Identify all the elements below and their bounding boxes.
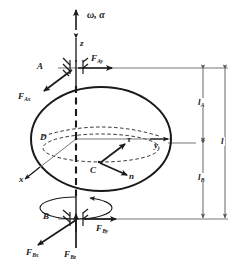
upper-dashed-arc (43, 127, 159, 136)
force-fbz-label: FBz (64, 250, 76, 259)
equator-ellipse (43, 134, 159, 162)
force-fbx-label: FBx (26, 248, 39, 257)
dimension-extension-lines (58, 68, 228, 219)
force-fax-arrow (44, 70, 72, 91)
dimension-l-label: l (220, 137, 225, 146)
vector-tau-arrow (100, 144, 125, 163)
omega-alpha-label: ω, α (87, 10, 105, 20)
diagram-svg (0, 0, 238, 271)
vector-tau-label: τ (127, 135, 131, 144)
force-fay-label: FAy (91, 54, 103, 63)
point-d-dot (75, 138, 78, 141)
dimension-lb-label: lB (197, 173, 205, 182)
dimension-la-label: lA (197, 98, 205, 107)
force-fby-label: FBy (96, 224, 108, 233)
force-fbx-sub: Bx (32, 252, 39, 258)
dimension-lb-sub: B (201, 177, 205, 183)
x-axis-line (25, 139, 76, 179)
y-axis-label: y (154, 141, 158, 150)
force-fbz-sub: Bz (70, 254, 76, 260)
point-c-label: C (90, 166, 96, 175)
x-axis-label: x (19, 175, 24, 184)
z-axis-label: z (80, 39, 84, 48)
point-d-label: D (40, 133, 47, 142)
vector-n-arrow (100, 163, 127, 175)
dimension-l-base: l (221, 136, 224, 146)
force-fbx-arrow (38, 220, 76, 245)
force-fby-sub: By (102, 228, 108, 234)
force-fay-sub: Ay (97, 58, 103, 64)
point-a-label: A (37, 62, 43, 71)
dimension-la-sub: A (201, 102, 205, 108)
point-c-dot (98, 161, 100, 163)
force-fax-label: FAx (18, 92, 31, 101)
vector-n-label: n (129, 172, 134, 181)
point-b-label: B (43, 212, 49, 221)
force-fax-sub: Ax (24, 96, 31, 102)
figure-canvas: ω, α z y x A B D C τ n FAy FAx FBy FBx F… (0, 0, 238, 271)
